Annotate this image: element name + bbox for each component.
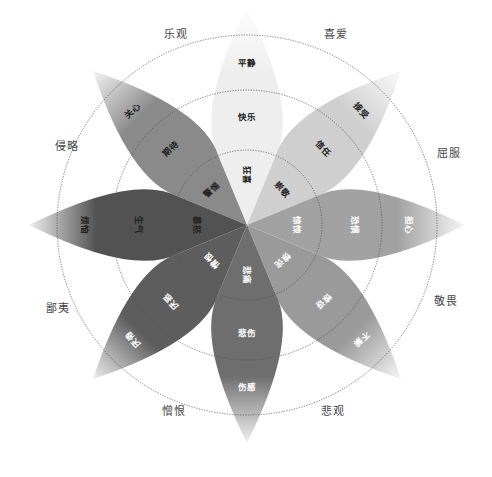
emotion-label-fear-2: 担心 — [404, 216, 414, 234]
emotion-label-sadness-0: 悲痛 — [242, 266, 252, 284]
emotion-label-joy-0: 狂喜 — [242, 166, 252, 184]
dyad-label: 鄙夷 — [46, 299, 70, 315]
dyad-label: 悲观 — [321, 402, 345, 418]
dyad-label: 屈服 — [437, 144, 461, 160]
emotion-label-sadness-2: 伤感 — [237, 382, 256, 392]
dyad-label: 侵略 — [55, 137, 79, 153]
emotion-petals — [29, 7, 465, 443]
emotion-label-anger-0: 暴怒 — [192, 215, 202, 234]
dyad-label: 敬畏 — [434, 292, 458, 308]
dyad-label: 乐观 — [164, 25, 188, 41]
emotion-label-joy-2: 平静 — [238, 58, 256, 68]
emotion-label-anger-2: 烦恼 — [80, 216, 90, 234]
emotion-label-fear-0: 惊悚 — [292, 215, 302, 234]
emotion-label-anger-1: 生气 — [134, 216, 144, 234]
emotion-label-fear-1: 恐惧 — [350, 216, 360, 234]
emotion-label-sadness-1: 悲伤 — [238, 328, 256, 338]
emotion-label-joy-1: 快乐 — [238, 112, 256, 122]
dyad-label: 喜爱 — [324, 25, 348, 41]
emotion-wheel: 狂喜快乐平静崇敬信任接受惊悚恐惧担心惊诧惊讶不解警惕期待关心悲痛悲伤伤感憎恨厌恶… — [0, 0, 492, 477]
dyad-label: 憎恨 — [162, 402, 186, 418]
